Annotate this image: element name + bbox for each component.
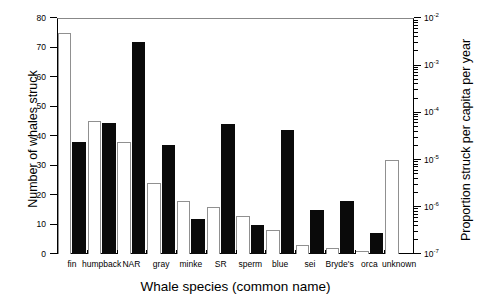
y-minor-tick-right — [414, 89, 418, 90]
bar-open-nar — [117, 142, 131, 254]
y-minor-tick-right — [414, 79, 418, 80]
y-minor-tick-right — [414, 239, 418, 240]
x-axis-separator-tick — [87, 250, 88, 254]
y-minor-tick-right — [414, 98, 418, 99]
y-tick-label-right: 10-7 — [424, 248, 439, 259]
y-minor-tick-right — [414, 42, 418, 43]
whale-strike-bar-chart: Number of whales struck Proportion struc… — [0, 0, 481, 300]
bar-open-sei — [296, 245, 310, 254]
y-minor-tick-right — [414, 50, 418, 51]
bar-open-bryde-s — [326, 248, 340, 254]
y-minor-tick-right — [414, 122, 418, 123]
y-minor-tick-right — [414, 20, 418, 21]
y-minor-tick-right — [414, 161, 418, 162]
y-minor-tick-right — [414, 170, 418, 171]
y-tick-label-left: 70 — [20, 42, 46, 52]
y-minor-tick-right — [414, 75, 418, 76]
y-minor-tick-right — [414, 131, 418, 132]
bar-filled-nar — [132, 42, 146, 254]
x-tick-label-orca: orca — [361, 259, 378, 269]
y-minor-tick-right — [414, 173, 418, 174]
x-tick-label-bryde-s: Bryde's — [326, 259, 354, 269]
y-tick-right — [414, 159, 421, 160]
bar-filled-minke — [191, 219, 205, 254]
y-tick-label-left: 80 — [20, 13, 46, 23]
y-minor-tick-right — [414, 211, 418, 212]
y-minor-tick-right — [414, 192, 418, 193]
bar-filled-sr — [221, 124, 235, 254]
x-axis-separator-tick — [265, 250, 266, 254]
bar-filled-humpback — [102, 123, 116, 254]
y-tick-right — [414, 206, 421, 207]
x-tick-label-nar: NAR — [122, 259, 140, 269]
y-minor-tick-right — [414, 184, 418, 185]
y-minor-tick-right — [414, 25, 418, 26]
y-tick-label-left: 20 — [20, 190, 46, 200]
x-axis-separator-tick — [325, 250, 326, 254]
y-minor-tick-right — [414, 119, 418, 120]
y-tick-label-left: 40 — [20, 131, 46, 141]
y-minor-tick-right — [414, 217, 418, 218]
y-minor-tick-right — [414, 164, 418, 165]
y-minor-tick-right — [414, 208, 418, 209]
y-tick-left — [50, 76, 57, 77]
x-axis-separator-tick — [355, 250, 356, 254]
bar-filled-gray — [162, 145, 176, 254]
y-minor-tick-right — [414, 28, 418, 29]
y-tick-left — [50, 47, 57, 48]
bar-open-sr — [207, 207, 221, 254]
bar-open-sperm — [236, 216, 250, 254]
bar-open-gray — [147, 183, 161, 254]
y-tick-right — [414, 65, 421, 66]
bar-open-blue — [266, 230, 280, 254]
y-tick-label-left: 60 — [20, 72, 46, 82]
bar-filled-bryde-s — [340, 201, 354, 254]
y-tick-label-right: 10-3 — [424, 59, 439, 70]
bar-filled-sperm — [251, 225, 265, 255]
y-tick-left — [50, 135, 57, 136]
bar-open-fin — [58, 33, 72, 254]
y-minor-tick-right — [414, 22, 418, 23]
x-axis-separator-tick — [146, 250, 147, 254]
bar-open-humpback — [88, 121, 102, 254]
x-tick-label-sr: SR — [215, 259, 227, 269]
y-minor-tick-right — [414, 126, 418, 127]
x-tick-label-blue: blue — [272, 259, 288, 269]
y-axis-label-right: Proportion struck per capita per year — [459, 15, 473, 265]
x-axis-separator-tick — [236, 250, 237, 254]
y-tick-right — [414, 112, 421, 113]
x-axis-separator-tick — [384, 250, 385, 254]
y-tick-left — [50, 194, 57, 195]
y-minor-tick-right — [414, 83, 418, 84]
bar-filled-sei — [310, 210, 324, 254]
bar-open-orca — [355, 251, 369, 254]
y-tick-right — [414, 17, 421, 18]
y-minor-tick-right — [414, 69, 418, 70]
x-tick-label-minke: minke — [180, 259, 203, 269]
bar-open-unknown — [385, 160, 399, 254]
x-axis-separator-tick — [117, 250, 118, 254]
y-tick-left — [50, 253, 57, 254]
y-tick-label-right: 10-5 — [424, 154, 439, 165]
y-minor-tick-right — [414, 225, 418, 226]
y-tick-left — [50, 17, 57, 18]
y-tick-left — [50, 106, 57, 107]
y-tick-label-left: 30 — [20, 160, 46, 170]
x-tick-label-gray: gray — [153, 259, 170, 269]
y-tick-label-right: 10-6 — [424, 201, 439, 212]
y-tick-label-left: 50 — [20, 101, 46, 111]
y-minor-tick-right — [414, 114, 418, 115]
y-tick-label-left: 10 — [20, 219, 46, 229]
x-tick-label-sei: sei — [304, 259, 315, 269]
y-minor-tick-right — [414, 221, 418, 222]
y-minor-tick-right — [414, 137, 418, 138]
x-axis-label: Whale species (common name) — [57, 279, 414, 294]
bar-filled-fin — [72, 142, 86, 254]
x-tick-label-sperm: sperm — [239, 259, 263, 269]
y-minor-tick-right — [414, 72, 418, 73]
y-tick-label-left: 0 — [20, 249, 46, 259]
y-minor-tick-right — [414, 178, 418, 179]
y-minor-tick-right — [414, 32, 418, 33]
y-minor-tick-right — [414, 145, 418, 146]
x-tick-label-humpback: humpback — [82, 259, 121, 269]
